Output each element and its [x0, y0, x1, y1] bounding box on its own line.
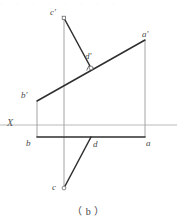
point-label-d-prime: d' — [85, 52, 91, 61]
point-label-b-prime: b' — [21, 91, 27, 100]
projection-figure: · · · · · · · · X c' a' d' b' b d a c （ … — [0, 0, 177, 222]
drawing-canvas — [0, 0, 177, 222]
point-label-a: a — [146, 139, 151, 148]
point-label-b: b — [26, 139, 31, 148]
point-marker-c-prime — [62, 16, 65, 19]
point-marker-c — [62, 186, 66, 190]
point-label-a-prime: a' — [142, 30, 148, 39]
point-marker-d-prime — [89, 66, 93, 70]
axis-label-x: X — [7, 118, 13, 128]
point-label-c-prime: c' — [50, 8, 56, 17]
top-view-line-dc — [64, 137, 91, 188]
front-view-line-ba — [37, 40, 145, 101]
figure-caption: （ b ） — [0, 203, 177, 218]
point-label-d: d — [93, 140, 98, 149]
point-label-c: c — [52, 183, 56, 192]
